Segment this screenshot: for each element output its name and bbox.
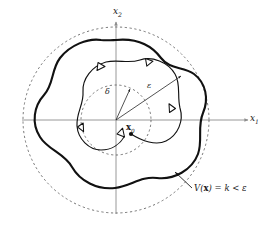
flow-arrowhead-top [146,59,154,67]
initial-state-subscript: 0 [131,128,135,134]
flow-arrowhead-left [78,123,84,132]
x-axis-label-subscript: 1 [255,118,259,125]
trajectory-path [77,59,181,150]
trajectory-group [77,59,181,151]
y-axis-label-subscript: 2 [118,11,122,18]
level-set-suffix: ) = k < ε [209,183,247,193]
lyapunov-stability-figure: x2 x1 δ ε x0 V(x) = k < ε [0,0,271,229]
epsilon-label: ε [147,81,151,90]
level-set-curve [35,40,206,189]
flow-arrowhead-right [169,104,176,113]
level-set-leader-line [175,172,192,188]
delta-label: δ [105,87,110,96]
initial-state-label: x0 [126,122,135,134]
x-axis-label: x1 [250,113,259,125]
flow-arrowhead-lower-right [117,128,125,137]
level-set-label: V(x) = k < ε [194,183,247,193]
flow-arrowhead-upper-left [97,63,105,71]
y-axis-label: x2 [113,6,122,18]
figure-canvas [0,0,271,229]
